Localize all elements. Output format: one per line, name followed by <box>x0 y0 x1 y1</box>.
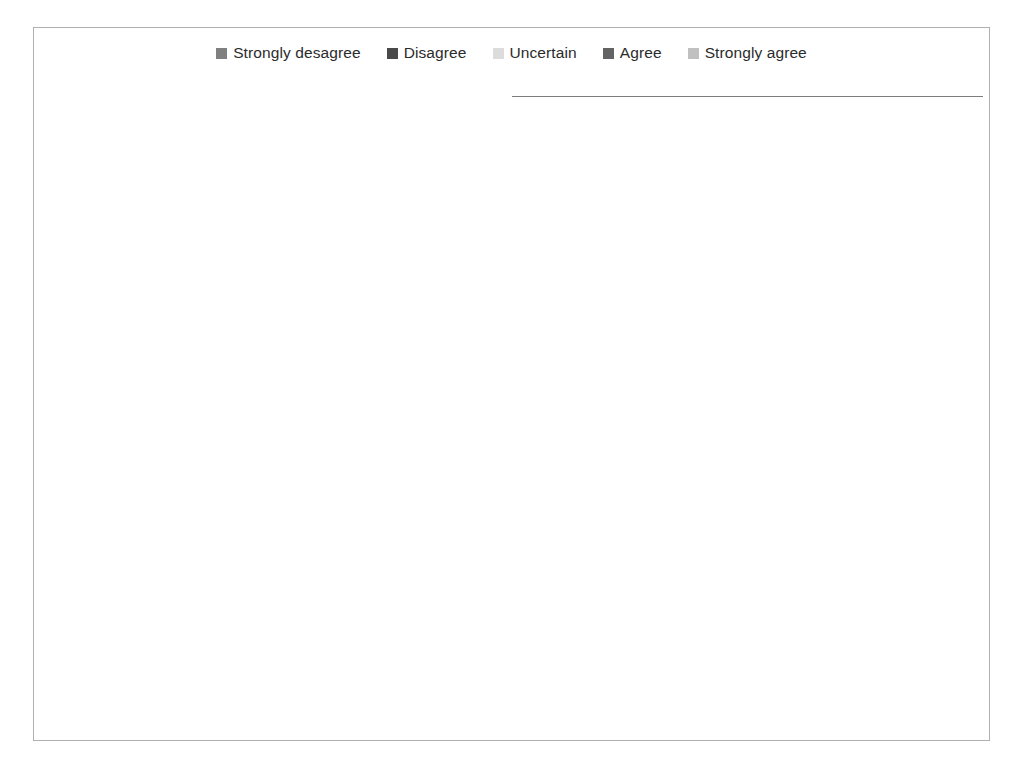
chart-frame: Strongly desagreeDisagreeUncertainAgreeS… <box>33 27 990 741</box>
plot-area <box>40 96 983 734</box>
legend-item[interactable]: Agree <box>603 44 662 62</box>
legend-item-label: Strongly desagree <box>233 44 361 62</box>
x-axis-scale <box>512 96 983 136</box>
legend-swatch-icon <box>387 48 398 59</box>
legend-item-label: Uncertain <box>510 44 577 62</box>
x-axis <box>40 96 983 136</box>
legend-item[interactable]: Disagree <box>387 44 467 62</box>
legend-swatch-icon <box>603 48 614 59</box>
legend-swatch-icon <box>493 48 504 59</box>
legend-item[interactable]: Strongly desagree <box>216 44 361 62</box>
legend-item-label: Agree <box>620 44 662 62</box>
x-axis-line <box>512 96 983 97</box>
legend-item[interactable]: Uncertain <box>493 44 577 62</box>
chart-legend: Strongly desagreeDisagreeUncertainAgreeS… <box>34 44 989 62</box>
legend-swatch-icon <box>216 48 227 59</box>
legend-item-label: Strongly agree <box>705 44 807 62</box>
legend-item[interactable]: Strongly agree <box>688 44 807 62</box>
legend-swatch-icon <box>688 48 699 59</box>
legend-item-label: Disagree <box>404 44 467 62</box>
